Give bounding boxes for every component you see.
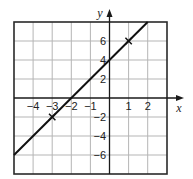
- line-graph: y x −4 −3 −2 −1 1 2 6 4 2 −2 −4 −6: [0, 0, 193, 179]
- x-tick-label: −4: [27, 100, 40, 112]
- x-axis-label: x: [175, 101, 182, 115]
- x-tick-label: −3: [46, 100, 59, 112]
- y-tick-label: −4: [93, 130, 106, 142]
- x-tick-label: 2: [145, 100, 151, 112]
- y-tick-label: −6: [93, 149, 106, 161]
- y-tick-label: −2: [93, 111, 106, 123]
- y-axis-label: y: [96, 6, 103, 20]
- x-tick-label: 1: [126, 100, 132, 112]
- x-tick-labels: −4 −3 −2 −1 1 2: [27, 100, 151, 112]
- y-tick-label: 2: [100, 73, 106, 85]
- y-axis-arrow-icon: [107, 9, 113, 17]
- y-tick-label: 6: [100, 35, 106, 47]
